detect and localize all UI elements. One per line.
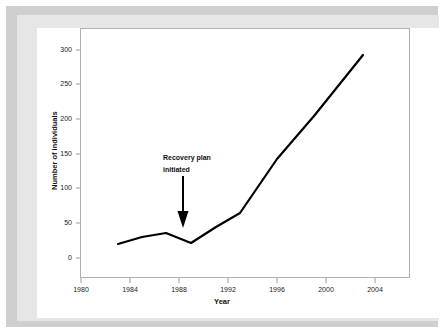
y-tick-label: 50 xyxy=(48,219,72,226)
x-axis-ticks xyxy=(81,278,375,283)
x-tick-label: 2000 xyxy=(309,286,343,293)
recovery-plan-annotation: Recovery plan initiated xyxy=(163,152,211,176)
data-series-line xyxy=(118,55,363,244)
x-tick-label: 1992 xyxy=(211,286,245,293)
y-tick-label: 0 xyxy=(48,254,72,261)
x-tick-label: 1984 xyxy=(113,286,147,293)
y-tick-label: 250 xyxy=(48,80,72,87)
annotation-line-1: Recovery plan xyxy=(163,152,211,164)
x-tick-label: 2004 xyxy=(358,286,392,293)
x-tick-label: 1980 xyxy=(64,286,98,293)
y-axis-ticks xyxy=(76,50,80,258)
down-arrow-icon xyxy=(178,176,189,228)
x-tick-label: 1988 xyxy=(162,286,196,293)
y-axis-title: Number of individuals xyxy=(50,111,59,190)
x-tick-label: 1996 xyxy=(260,286,294,293)
line-chart: 300 250 200 150 100 50 0 1980 1984 1988 … xyxy=(0,0,444,333)
annotation-line-2: initiated xyxy=(163,164,211,176)
y-tick-label: 300 xyxy=(48,46,72,53)
x-axis-title: Year xyxy=(0,297,444,306)
